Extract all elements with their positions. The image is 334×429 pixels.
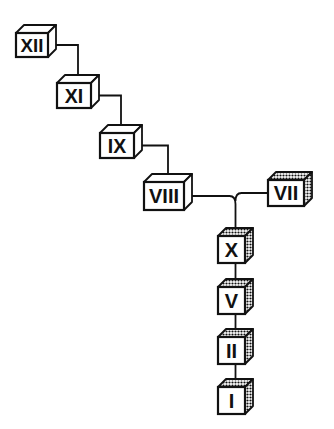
cube-label: V [225, 290, 239, 312]
connector-VIII-X [188, 196, 236, 230]
cube-label: I [229, 390, 235, 412]
cube-label: VIII [149, 185, 179, 207]
cube-node-v: V [218, 279, 253, 314]
cube-node-ii: II [218, 329, 253, 364]
cube-node-xii: XII [16, 25, 56, 57]
cube-label: VII [274, 182, 298, 204]
cube-node-x: X [218, 228, 253, 263]
cube-label: IX [108, 135, 126, 157]
connector-VII-X [236, 193, 268, 201]
cube-label: X [225, 239, 239, 261]
cube-node-xi: XI [57, 75, 99, 108]
cube-node-i: I [218, 379, 253, 414]
cube-label: II [226, 340, 237, 362]
cube-tree-diagram: XIIXIIXVIIIVIIXVIII [0, 0, 334, 429]
cube-label: XI [65, 85, 83, 107]
cube-node-vii: VII [268, 172, 312, 206]
cube-node-viii: VIII [144, 174, 192, 210]
cube-nodes: XIIXIIXVIIIVIIXVIII [16, 25, 312, 414]
cube-label: XII [21, 35, 44, 56]
cube-node-ix: IX [100, 125, 142, 158]
